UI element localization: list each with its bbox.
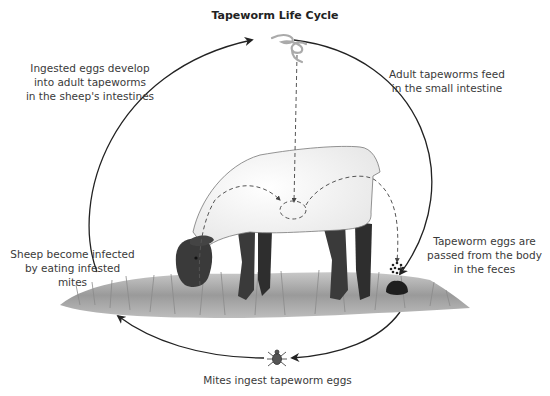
label-line: Mites ingest tapeworm eggs <box>195 373 360 387</box>
label-line: Adult tapeworms feed <box>372 67 522 81</box>
arrow-feces-to-mite <box>292 312 400 358</box>
stage-label-develop: Ingested eggs develop into adult tapewor… <box>20 61 160 103</box>
label-line: Sheep become infected <box>10 247 135 261</box>
label-line: in the sheep's intestines <box>20 89 160 103</box>
stage-label-sheep-infected: Sheep become infected by eating infested… <box>10 247 135 289</box>
label-line: passed from the body <box>422 248 547 262</box>
stage-label-adult-feed: Adult tapeworms feed in the small intest… <box>372 67 522 95</box>
stage-label-eggs-passed: Tapeworm eggs are passed from the body i… <box>422 234 547 276</box>
stage-label-mites-ingest: Mites ingest tapeworm eggs <box>195 373 360 387</box>
label-line: in the feces <box>422 262 547 276</box>
label-line: in the small intestine <box>372 81 522 95</box>
label-line: by eating infested mites <box>10 261 135 289</box>
tapeworm-icon <box>272 35 306 62</box>
arrow-mite-to-sheep <box>118 316 264 358</box>
mite-icon <box>267 350 287 366</box>
eggs-icon <box>390 262 405 275</box>
label-line: Tapeworm eggs are <box>422 234 547 248</box>
label-line: Ingested eggs develop <box>20 61 160 75</box>
life-cycle-diagram <box>0 0 550 396</box>
label-line: into adult tapeworms <box>20 75 160 89</box>
